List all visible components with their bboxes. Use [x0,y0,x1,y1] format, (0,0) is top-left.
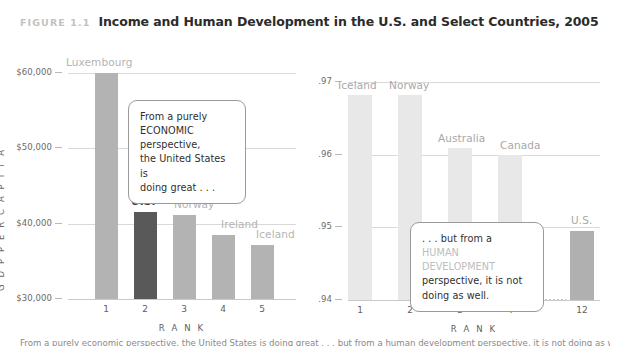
xtick-hdi-12: 12 [567,305,597,315]
xaxis-title-hdi: R A N K [348,324,600,334]
bar-hdi-iceland[interactable] [348,95,372,300]
bar-label-hdi-canada: Canada [500,139,541,151]
xtick-gdp-5: 5 [247,304,277,314]
bar-label-hdi-norway: Norway [389,79,429,91]
callout-economic: From a purely ECONOMIC perspective, the … [128,100,246,204]
ytick-label-gdp-0: $30,000 [10,293,62,303]
callout-economic-line-3: the United States is [140,152,234,180]
bar-hdi-us[interactable] [570,231,594,300]
callout-hd-line-1: . . . but from a [422,232,532,246]
bar-label-hdi-iceland: Iceland [338,79,377,91]
ytick-label-hdi-2: .96 [290,149,342,159]
callout-human-development: . . . but from a HUMAN DEVELOPMENT persp… [410,222,544,312]
bar-label-gdp-ireland: Ireland [221,218,258,230]
figure-title: Income and Human Development in the U.S.… [98,14,598,29]
bar-label-gdp-luxembourg: Luxembourg [66,56,132,68]
xtick-gdp-3: 3 [169,304,199,314]
bar-label-gdp-iceland: Iceland [256,228,295,240]
gridline-hdi-97 [348,82,600,83]
figure-caption: From a purely economic perspective, the … [20,338,610,346]
bar-gdp-iceland[interactable] [251,245,274,299]
xtick-gdp-1: 1 [91,304,121,314]
ytick-label-hdi-1: .95 [290,221,342,231]
callout-hd-line-4: doing as well. [422,289,532,303]
callout-hd-line-3: perspective, it is not [422,274,532,288]
xtick-gdp-4: 4 [208,304,238,314]
gridline-hdi-96 [348,155,600,156]
figure-header: FIGURE 1.1 Income and Human Development … [0,0,620,33]
callout-economic-line-1: From a purely [140,110,234,124]
callout-hd-line-2-ghost: HUMAN DEVELOPMENT [422,246,532,274]
figure-number-label: FIGURE 1.1 [20,17,90,28]
figure-root: FIGURE 1.1 Income and Human Development … [0,0,620,346]
yaxis-title-gdp: G D P P E R C A P I T A [0,148,6,291]
ytick-label-hdi-0: .94 [290,294,342,304]
xaxis-title-gdp: R A N K [68,323,296,333]
ytick-label-hdi-3: .97 [290,76,342,86]
ytick-label-gdp-2: $50,000 [10,142,62,152]
bar-gdp-ireland[interactable] [212,235,235,299]
ytick-label-gdp-1: $40,000 [10,218,62,228]
bar-gdp-norway[interactable] [173,215,196,299]
xtick-gdp-2: 2 [130,304,160,314]
figure-header-inner: FIGURE 1.1 Income and Human Development … [20,14,599,29]
bar-gdp-luxembourg[interactable] [95,73,118,299]
ytick-label-gdp-3: $60,000 [10,67,62,77]
xtick-hdi-1: 1 [345,305,375,315]
callout-economic-line-4: doing great . . . [140,181,234,195]
bar-label-hdi-australia: Australia [438,132,485,144]
gridline-gdp-30000 [68,299,296,300]
bar-label-hdi-us: U.S. [571,214,592,226]
callout-economic-line-2: ECONOMIC perspective, [140,124,234,152]
bar-gdp-us[interactable] [134,212,157,299]
